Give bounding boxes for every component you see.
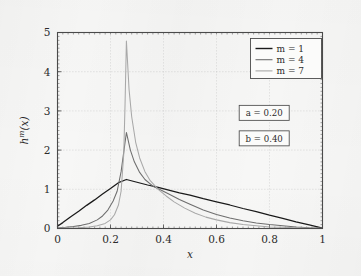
x-tick-label: 0 — [54, 233, 61, 245]
legend-label-0: m = 1 — [277, 44, 305, 54]
y-tick-label: 2 — [44, 144, 51, 156]
legend: m = 1m = 4m = 7 — [251, 39, 322, 79]
y-tick-label: 4 — [44, 66, 51, 78]
svg-text:hm(x): hm(x) — [17, 116, 30, 144]
y-tick-label: 1 — [44, 183, 51, 195]
y-tick-label: 5 — [44, 26, 51, 38]
y-axis-title: hm(x) — [17, 116, 30, 144]
annotations: a = 0.20b = 0.40 — [239, 105, 289, 145]
x-tick-label: 1 — [319, 233, 326, 245]
x-tick-label: 0.8 — [261, 233, 278, 245]
x-tick-label: 0.6 — [208, 233, 225, 245]
legend-label-2: m = 7 — [277, 66, 305, 76]
x-tick-label: 0.2 — [102, 233, 119, 245]
y-tick-label: 3 — [44, 105, 51, 117]
figure-canvas: 00.20.40.60.81012345 xhm(x) m = 1m = 4m … — [0, 0, 361, 276]
x-axis-title: x — [187, 248, 193, 260]
chart-plot: 00.20.40.60.81012345 xhm(x) m = 1m = 4m … — [0, 0, 361, 276]
x-tick-label: 0.4 — [155, 233, 172, 245]
y-tick-label: 0 — [44, 222, 51, 234]
parameter-a-label: a = 0.20 — [246, 108, 283, 118]
parameter-b-label: b = 0.40 — [246, 134, 283, 144]
legend-label-1: m = 4 — [277, 55, 305, 65]
curve-series-1 — [58, 132, 323, 228]
